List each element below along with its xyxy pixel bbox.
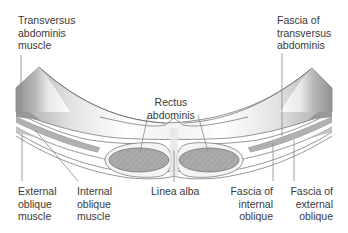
label-fascia-of-internal-oblique: Fascia of internal oblique [230, 185, 273, 223]
abdominal-wall-diagram: Transversus abdominis muscle Rectus abdo… [0, 0, 348, 233]
rectus-abdominis-left [105, 143, 172, 178]
rectus-abdominis-right [176, 143, 243, 178]
label-fascia-of-transversus-abdominis: Fascia of transversus abdominis [277, 14, 331, 52]
label-fascia-of-external-oblique: Fascia of external oblique [290, 185, 333, 223]
label-external-oblique-muscle: External oblique muscle [18, 185, 57, 223]
label-transversus-abdominis-muscle: Transversus abdominis muscle [18, 14, 75, 52]
label-linea-alba: Linea alba [151, 185, 199, 198]
label-internal-oblique-muscle: Internal oblique muscle [77, 185, 112, 223]
label-rectus-abdominis: Rectus abdominis [147, 96, 195, 121]
